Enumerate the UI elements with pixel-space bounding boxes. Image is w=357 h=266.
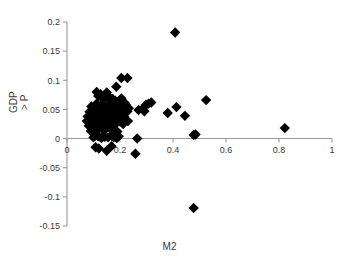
plot-canvas: -0.15-0.1-0.0500.050.10.150.2 00.20.40.6…: [0, 0, 357, 266]
y-tick-label: 0: [55, 134, 60, 144]
y-tick-label: 0.2: [47, 17, 60, 27]
y-axis-title-line1: GDP: [8, 91, 19, 113]
x-tick-label: 0.4: [167, 145, 180, 155]
scatter-plot-figure: -0.15-0.1-0.0500.050.10.150.2 00.20.40.6…: [0, 0, 357, 266]
x-tick-label: 0: [64, 145, 69, 155]
x-axis-title: M2: [163, 241, 177, 252]
y-tick-label: 0.05: [42, 105, 60, 115]
x-tick-label: 1: [329, 145, 334, 155]
x-tick-label: 0.8: [273, 145, 286, 155]
y-tick-label: 0.1: [47, 76, 60, 86]
y-tick-label: -0.15: [39, 221, 60, 231]
y-axis-title-line2: > P: [19, 94, 30, 110]
y-tick-label: 0.15: [42, 46, 60, 56]
y-tick-label: -0.05: [39, 163, 60, 173]
y-tick-label: -0.1: [44, 192, 60, 202]
x-tick-label: 0.6: [220, 145, 233, 155]
